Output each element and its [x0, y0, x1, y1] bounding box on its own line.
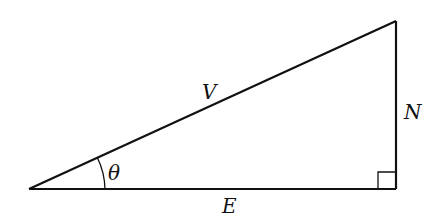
- hypotenuse-label: V: [202, 80, 219, 104]
- angle-arc: [97, 158, 105, 189]
- triangle-canvas: V N E θ: [0, 0, 442, 222]
- angle-label: θ: [108, 161, 120, 185]
- right-angle-marker: [378, 172, 396, 189]
- base-label: E: [221, 194, 237, 218]
- triangle-diagram: V N E θ: [0, 0, 442, 222]
- vertical-side-label: N: [403, 100, 423, 124]
- hypotenuse-line: [29, 21, 396, 189]
